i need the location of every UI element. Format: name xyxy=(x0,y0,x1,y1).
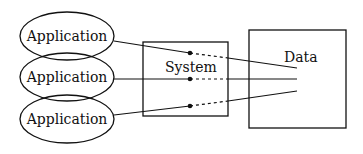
connector-3-solid xyxy=(114,106,190,115)
application-label-1: Application xyxy=(26,28,108,44)
junction-dot-1 xyxy=(188,51,193,56)
connector-1-dashed xyxy=(190,53,228,58)
application-label-3: Application xyxy=(26,111,108,127)
connector-3-data xyxy=(228,91,297,101)
connector-1-solid xyxy=(114,41,190,53)
architecture-diagram: Data System Application Application Appl… xyxy=(0,0,363,154)
junction-dot-2 xyxy=(188,77,193,82)
connector-3-dashed xyxy=(190,101,228,106)
junction-dot-3 xyxy=(188,104,193,109)
system-label: System xyxy=(165,59,217,75)
data-label: Data xyxy=(284,49,318,65)
application-label-2: Application xyxy=(26,69,108,85)
